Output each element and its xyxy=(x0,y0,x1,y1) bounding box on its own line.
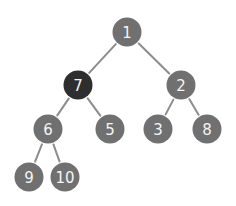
node-label: 6 xyxy=(43,121,53,139)
tree-node-7: 7 xyxy=(64,71,93,100)
tree-node-5: 5 xyxy=(96,115,125,144)
tree-node-2: 2 xyxy=(167,71,196,100)
tree-diagram: 1726538910 xyxy=(0,0,236,206)
edge-n1-n7 xyxy=(89,44,116,73)
node-label: 8 xyxy=(202,121,212,139)
tree-node-1: 1 xyxy=(113,18,142,47)
edge-n1-n2 xyxy=(139,44,169,74)
edges-group xyxy=(35,44,199,162)
node-label: 2 xyxy=(176,77,186,95)
node-label: 7 xyxy=(73,77,83,95)
node-label: 5 xyxy=(105,121,115,139)
node-label: 3 xyxy=(153,121,163,139)
tree-node-9: 9 xyxy=(15,163,44,192)
tree-node-10: 10 xyxy=(51,163,80,192)
nodes-group: 1726538910 xyxy=(15,18,222,192)
node-label: 1 xyxy=(122,24,132,42)
node-label: 10 xyxy=(55,169,74,187)
tree-node-3: 3 xyxy=(144,115,173,144)
edge-n6-n9 xyxy=(35,144,42,161)
edge-n7-n5 xyxy=(88,98,101,115)
node-label: 9 xyxy=(24,169,34,187)
tree-node-6: 6 xyxy=(34,115,63,144)
tree-node-8: 8 xyxy=(193,115,222,144)
edge-n7-n6 xyxy=(57,99,68,116)
edge-n2-n8 xyxy=(189,99,198,115)
edge-n2-n3 xyxy=(166,100,174,115)
edge-n6-n10 xyxy=(54,145,60,162)
